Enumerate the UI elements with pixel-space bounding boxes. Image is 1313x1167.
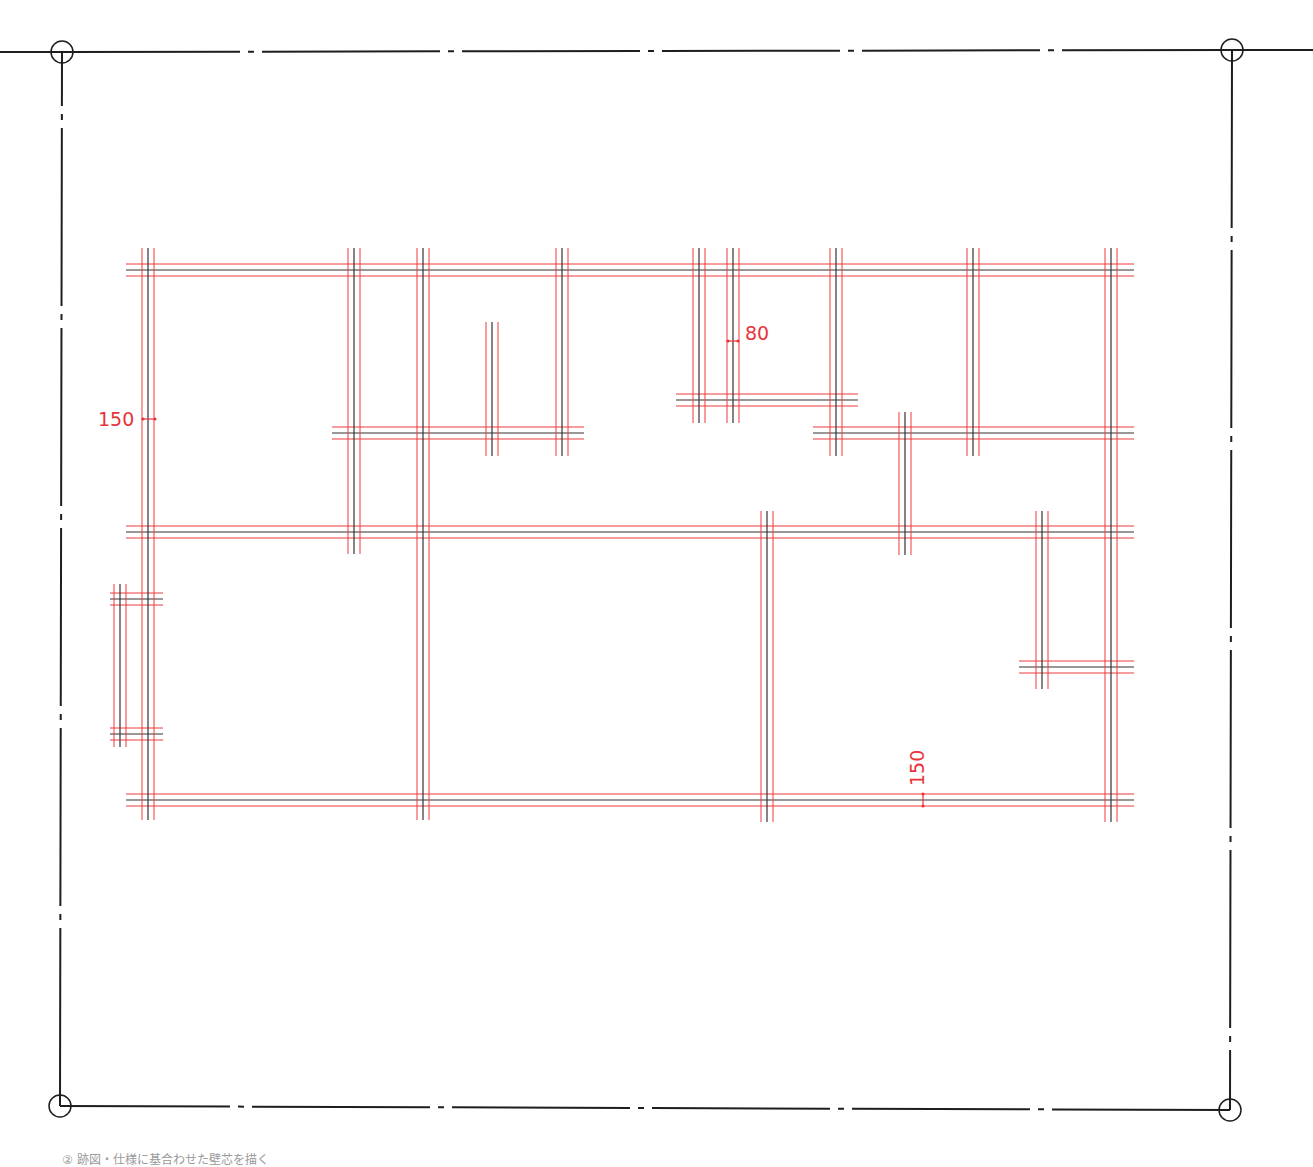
figure-caption: ② 跡図・仕様に基合わせた壁芯を描く xyxy=(62,1150,269,1167)
wall-vertical xyxy=(348,248,360,554)
dimension-label: 80 xyxy=(745,322,769,344)
wall-vertical xyxy=(114,584,126,747)
boundary-line xyxy=(60,52,62,1106)
wall-vertical xyxy=(967,248,979,456)
wall-vertical xyxy=(761,511,773,822)
wall-horizontal xyxy=(126,794,1134,806)
wall-horizontal xyxy=(676,394,858,406)
wall-horizontal xyxy=(332,427,584,439)
wall-grid xyxy=(110,248,1134,822)
boundary-line xyxy=(1230,50,1232,1110)
dimension-annotations: 15080150 xyxy=(98,322,928,808)
wall-horizontal xyxy=(126,264,1134,276)
wall-vertical xyxy=(486,322,498,456)
wall-vertical xyxy=(727,248,739,423)
wall-horizontal xyxy=(110,593,163,605)
wall-horizontal xyxy=(126,526,1134,538)
wall-horizontal xyxy=(110,728,163,740)
dimension-label: 150 xyxy=(98,408,134,430)
wall-vertical xyxy=(693,248,705,423)
wall-vertical xyxy=(556,248,568,456)
wall-vertical xyxy=(1105,248,1117,822)
dimension-label: 150 xyxy=(906,750,928,786)
boundary-line xyxy=(62,50,1232,52)
wall-vertical xyxy=(830,248,842,456)
wall-vertical xyxy=(417,248,429,820)
dimension-150: 150 xyxy=(906,750,928,808)
site-boundary xyxy=(0,39,1313,1121)
boundary-line xyxy=(60,1106,1230,1110)
